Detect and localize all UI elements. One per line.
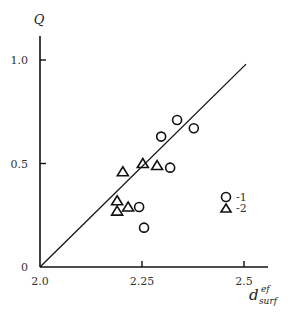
x-tick-label: 2.25	[130, 275, 155, 288]
circle-marker	[173, 116, 182, 125]
circle-marker	[166, 163, 175, 172]
triangle-marker	[117, 167, 128, 176]
reference-line	[40, 64, 246, 267]
x-axis-title-sup: ef	[261, 284, 271, 294]
legend-label-2: -2	[236, 202, 247, 215]
x-axis-title-sub: surf	[259, 296, 279, 306]
data-points	[112, 116, 199, 233]
y-axis-title: Q	[34, 12, 45, 27]
legend: -1 -2	[221, 191, 247, 215]
legend-triangle-icon	[221, 204, 231, 212]
axes	[40, 36, 268, 267]
circle-marker	[189, 124, 198, 133]
triangle-marker	[112, 196, 123, 205]
y-tick-label: 0	[21, 261, 28, 274]
x-axis-title-main: d	[249, 286, 259, 304]
x-axis-title: d ef surf	[249, 284, 279, 306]
circle-marker	[135, 202, 144, 211]
triangle-marker	[123, 202, 134, 211]
y-tick-label: 1.0	[11, 54, 29, 67]
triangle-marker	[112, 206, 123, 215]
triangle-marker	[152, 161, 163, 170]
circle-marker	[140, 223, 149, 232]
x-tick-label: 2.0	[31, 275, 49, 288]
scatter-chart: 2.02.252.500.51.0 Q d ef surf -1 -2	[0, 0, 296, 320]
legend-circle-icon	[222, 193, 231, 202]
circle-marker	[157, 132, 166, 141]
tick-labels: 2.02.252.500.51.0	[11, 54, 253, 288]
y-tick-label: 0.5	[11, 158, 29, 171]
ticks	[40, 60, 244, 267]
